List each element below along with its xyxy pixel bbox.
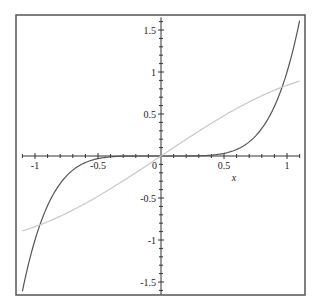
y-tick-label: -1.5 (140, 277, 156, 288)
y-tick-label: 1.5 (144, 25, 157, 36)
x-tick-label: 1 (285, 160, 290, 171)
x-tick-label: -0.5 (90, 160, 106, 171)
x-tick-label: 0.5 (218, 160, 231, 171)
x-axis-label: x (231, 172, 237, 183)
chart-plot: -1-0.50.51-1.5-1-0.50.511.50x (0, 0, 319, 308)
y-tick-label: -0.5 (140, 193, 156, 204)
y-tick-label: 1 (151, 67, 156, 78)
origin-label: 0 (152, 160, 157, 171)
y-tick-label: -1 (148, 235, 156, 246)
y-tick-label: 0.5 (144, 109, 157, 120)
x-tick-label: -1 (31, 160, 39, 171)
